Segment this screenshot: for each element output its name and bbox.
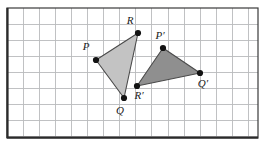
vertex-dot-R <box>135 30 141 36</box>
figure-container: PRQP′Q′R′ <box>0 0 267 150</box>
vertex-dot-P <box>93 57 99 63</box>
grid-plane <box>7 8 258 138</box>
vertex-label-P-prime: P′ <box>154 29 165 41</box>
vertex-dot-P-prime <box>160 45 166 51</box>
vertex-label-R-prime: R′ <box>133 89 144 101</box>
vertex-label-R: R <box>126 14 134 26</box>
vertex-dot-Q <box>121 95 127 101</box>
grid-background <box>7 8 258 138</box>
vertex-label-P: P <box>82 40 90 52</box>
geometry-figure: PRQP′Q′R′ <box>0 0 267 150</box>
vertex-label-Q-prime: Q′ <box>198 77 209 89</box>
vertex-label-Q: Q <box>116 104 124 116</box>
vertex-dot-Q-prime <box>197 70 203 76</box>
